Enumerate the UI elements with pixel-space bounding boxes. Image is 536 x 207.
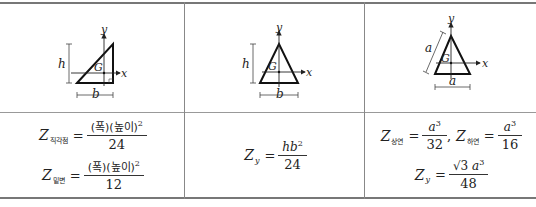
x-axis-label: x bbox=[482, 57, 489, 70]
formula-symbol: Z bbox=[42, 167, 52, 183]
figure-cell-right-triangle: h y x G b bbox=[0, 4, 184, 112]
centroid-point bbox=[450, 62, 452, 64]
formula-zy: Zy = hb2 24 bbox=[244, 139, 305, 172]
denominator: 24 bbox=[87, 135, 147, 152]
centroid-point bbox=[103, 72, 105, 74]
exponent: 2 bbox=[298, 139, 303, 148]
numerator: a bbox=[429, 120, 436, 134]
formula-subscript: 밑변 bbox=[53, 175, 65, 185]
equals-sign: = bbox=[435, 167, 446, 182]
denominator: 48 bbox=[449, 174, 488, 191]
equals-sign: = bbox=[70, 168, 81, 183]
fraction: √3 a3 48 bbox=[451, 158, 486, 191]
side-label: a bbox=[425, 41, 432, 55]
denominator: 32 bbox=[422, 135, 447, 152]
formula-cell-equilateral-triangle: Z상연 = a3 32 , Z하연 = a3 16 Zy = √3 a3 48 bbox=[365, 113, 536, 197]
numerator: a bbox=[504, 120, 511, 134]
denominator: 16 bbox=[498, 135, 523, 152]
formula-subscript: 하연 bbox=[467, 136, 479, 146]
y-axis-label: y bbox=[275, 21, 283, 34]
formula-symbol: Z bbox=[456, 128, 466, 144]
equilateral-triangle-figure: a y x G a bbox=[365, 4, 536, 112]
base-label: a bbox=[449, 74, 456, 88]
y-axis-label: y bbox=[447, 12, 455, 25]
formula-symbol: Z bbox=[381, 128, 391, 144]
formula-subscript: y bbox=[425, 175, 430, 184]
formula-symbol: Z bbox=[415, 167, 425, 183]
fraction: a3 32 bbox=[424, 119, 445, 152]
right-triangle-figure: h y x G b bbox=[0, 4, 184, 112]
figure-cell-equilateral-triangle: a y x G a bbox=[365, 4, 536, 112]
exponent: 2 bbox=[135, 159, 140, 168]
numerator: hb bbox=[282, 140, 297, 154]
equals-sign: = bbox=[484, 128, 495, 143]
formula-symbol: Z bbox=[244, 147, 254, 163]
base-label: b bbox=[276, 87, 284, 101]
exponent: 3 bbox=[511, 119, 516, 128]
fraction: hb2 24 bbox=[280, 139, 305, 172]
exponent: 3 bbox=[436, 119, 441, 128]
fraction: a3 16 bbox=[500, 119, 521, 152]
formula-z-base: Z밑변 = (폭)(높이)2 12 bbox=[42, 158, 142, 192]
equals-sign: = bbox=[264, 148, 275, 163]
formula-subscript: y bbox=[255, 156, 260, 165]
centroid-point bbox=[278, 71, 280, 73]
equals-sign: = bbox=[408, 128, 419, 143]
exponent: 2 bbox=[138, 119, 143, 128]
sqrt-term: √3 bbox=[453, 159, 468, 173]
table-bottom-border bbox=[0, 197, 536, 199]
formula-cell-right-triangle: Z직각점 = (폭)(높이)2 24 Z밑변 = (폭)(높이)2 12 bbox=[0, 113, 184, 197]
formula-z-top-bottom: Z상연 = a3 32 , Z하연 = a3 16 bbox=[381, 119, 521, 152]
formula-symbol: Z bbox=[39, 127, 49, 143]
isosceles-triangle-figure: h y x G b bbox=[185, 4, 364, 112]
figure-cell-isosceles-triangle: h y x G b bbox=[185, 4, 364, 112]
height-label: h bbox=[242, 57, 250, 71]
separator: , bbox=[447, 128, 451, 143]
base-label: b bbox=[92, 87, 100, 101]
numerator: (폭)(높이) bbox=[88, 161, 135, 174]
formula-z-right-angle-point: Z직각점 = (폭)(높이)2 24 bbox=[39, 118, 145, 152]
equals-sign: = bbox=[73, 128, 84, 143]
centroid-label: G bbox=[94, 61, 103, 74]
exponent: 3 bbox=[479, 158, 484, 167]
numerator: (폭)(높이) bbox=[91, 121, 138, 134]
fraction: (폭)(높이)2 24 bbox=[89, 118, 145, 152]
formula-subscript: 상연 bbox=[391, 136, 403, 146]
x-axis-label: x bbox=[306, 66, 313, 79]
centroid-label: G bbox=[441, 52, 450, 65]
formula-cell-isosceles-triangle: Zy = hb2 24 bbox=[185, 113, 364, 197]
fraction: (폭)(높이)2 12 bbox=[86, 158, 142, 192]
formula-subscript: 직각점 bbox=[50, 135, 68, 145]
section-modulus-table: h y x G b bbox=[0, 2, 536, 199]
y-axis-label: y bbox=[100, 23, 108, 36]
centroid-label: G bbox=[268, 60, 277, 73]
height-label: h bbox=[58, 57, 66, 71]
denominator: 12 bbox=[84, 175, 144, 192]
formula-zy: Zy = √3 a3 48 bbox=[415, 158, 487, 191]
x-axis-label: x bbox=[121, 67, 128, 80]
denominator: 24 bbox=[278, 155, 307, 172]
